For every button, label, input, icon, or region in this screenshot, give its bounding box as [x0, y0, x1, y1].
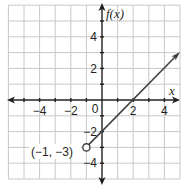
x-axis-label: x [168, 83, 175, 98]
point-label: (−1, −3) [31, 145, 73, 159]
coordinate-plane: f(x) x −4 −2 0 2 4 4 2 −2 −4 (−1, −3) [0, 0, 186, 190]
x-tick-label: 4 [161, 104, 168, 118]
y-tick-label: 4 [90, 30, 97, 44]
x-tick-label: −2 [64, 104, 78, 118]
y-tick-label: −4 [83, 156, 97, 170]
y-tick-label: −2 [83, 125, 97, 139]
origin-label: 0 [92, 102, 99, 116]
y-tick-label: 2 [90, 62, 97, 76]
open-endpoint-circle [83, 144, 90, 151]
y-axis-label: f(x) [106, 6, 124, 21]
x-tick-label: 2 [130, 104, 137, 118]
x-tick-label: −4 [33, 104, 47, 118]
y-axis [99, 3, 106, 185]
